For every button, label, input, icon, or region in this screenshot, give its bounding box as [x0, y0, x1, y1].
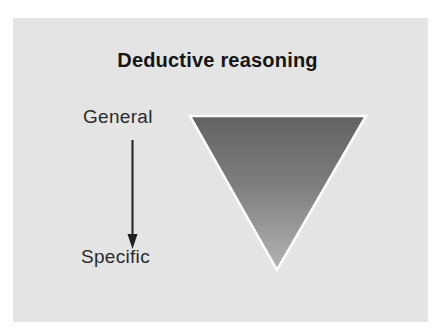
diagram-graphics — [0, 0, 435, 335]
inverted-triangle-shape — [190, 116, 366, 270]
down-arrow-icon — [128, 140, 138, 249]
